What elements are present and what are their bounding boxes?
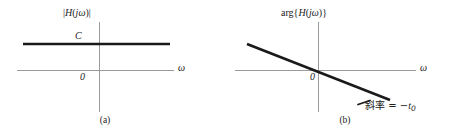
slope-minus-sign: − <box>400 100 408 111</box>
x-axis-label-omega-a: ω <box>178 63 185 73</box>
origin-label-a: 0 <box>80 72 85 82</box>
y-axis-label-phase: arg{H(jω)} <box>281 8 327 18</box>
slope-subscript-zero: 0 <box>411 104 416 113</box>
panel-magnitude-response: |H(jω)| C 0 ω (a) <box>0 0 230 140</box>
transfer-function-h: H <box>298 7 305 18</box>
figure-container: |H(jω)| C 0 ω (a) arg{H(jω)} 0 ω 斜率 = −t… <box>0 0 460 140</box>
panel-caption-a: (a) <box>85 116 125 126</box>
y-axis-label-magnitude: |H(jω)| <box>63 8 91 18</box>
panel-caption-b: (b) <box>325 116 365 126</box>
slope-word: 斜率 <box>365 100 385 111</box>
brace-close: } <box>322 7 327 18</box>
x-axis-label-omega-b: ω <box>420 63 427 73</box>
origin-label-b: 0 <box>310 72 315 82</box>
panel-phase-response: arg{H(jω)} 0 ω 斜率 = −t0 (b) <box>230 0 460 140</box>
slope-equals: = <box>385 100 400 111</box>
abs-bar-close: | <box>89 7 91 18</box>
arg-operator: arg <box>281 7 294 18</box>
magnitude-level-label-c: C <box>75 31 82 41</box>
slope-annotation: 斜率 = −t0 <box>365 101 416 112</box>
omega-symbol: ω <box>312 7 319 18</box>
